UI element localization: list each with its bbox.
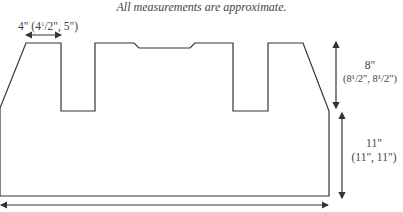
schematic-drawing: [0, 0, 403, 212]
garment-outline: [0, 43, 329, 196]
